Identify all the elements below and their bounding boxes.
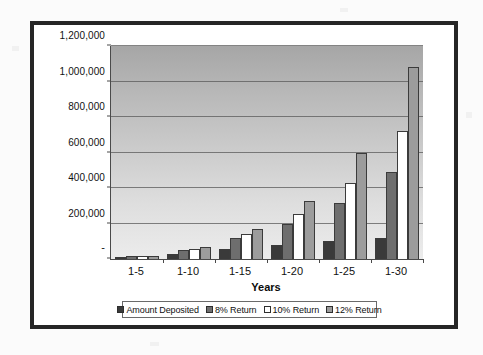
bar[interactable] [126, 256, 137, 259]
bar[interactable] [282, 224, 293, 260]
x-axis-tick-label: 1-10 [177, 265, 199, 277]
bar[interactable] [345, 183, 356, 259]
scanned-page: -200,000400,000600,000800,0001,000,0001,… [0, 0, 483, 355]
bar[interactable] [241, 234, 252, 259]
bar-group[interactable] [111, 46, 163, 259]
y-axis-tick-label: 800,000 [68, 101, 105, 112]
y-axis-tick-label: 600,000 [68, 136, 105, 147]
bar[interactable] [304, 201, 315, 259]
x-axis-labels: 1-51-101-151-201-251-30 [110, 265, 422, 281]
chart-legend: Amount Deposited8% Return10% Return12% R… [122, 301, 377, 318]
bar[interactable] [189, 249, 200, 259]
x-axis-tick-mark [423, 259, 424, 263]
x-axis-tick-label: 1-5 [128, 265, 144, 277]
bar[interactable] [200, 247, 211, 259]
x-axis-title: Years [110, 281, 422, 293]
scan-speckle [466, 112, 472, 118]
legend-swatch [206, 306, 213, 313]
bar-group[interactable] [371, 46, 423, 259]
bar[interactable] [356, 153, 367, 259]
legend-item[interactable]: 12% Return [326, 305, 382, 315]
scan-speckle [12, 46, 19, 51]
x-axis-tick-mark [267, 259, 268, 263]
bar-group[interactable] [163, 46, 215, 259]
legend-swatch [326, 306, 333, 313]
y-axis-tick-label: 1,000,000 [60, 65, 105, 76]
plot-area: -200,000400,000600,000800,0001,000,0001,… [110, 46, 423, 260]
legend-item[interactable]: 10% Return [264, 305, 320, 315]
legend-label: 12% Return [335, 305, 382, 315]
x-axis-tick-mark [163, 259, 164, 263]
legend-item[interactable]: Amount Deposited [117, 305, 198, 315]
x-axis-tick-label: 1-30 [385, 265, 407, 277]
legend-swatch [117, 306, 124, 313]
bar-group[interactable] [215, 46, 267, 259]
legend-label: Amount Deposited [126, 305, 198, 315]
scan-speckle [150, 342, 159, 346]
legend-swatch [264, 306, 271, 313]
bars-layer [111, 46, 423, 259]
bar[interactable] [252, 229, 263, 259]
bar[interactable] [375, 238, 386, 259]
bar[interactable] [230, 238, 241, 259]
bar[interactable] [167, 254, 178, 259]
x-axis-tick-mark [319, 259, 320, 263]
y-axis-tick-label: - [101, 241, 105, 253]
bar[interactable] [115, 257, 126, 259]
x-axis-tick-label: 1-20 [281, 265, 303, 277]
legend-label: 8% Return [215, 305, 257, 315]
x-axis-tick-mark [371, 259, 372, 263]
y-axis-tick-label: 200,000 [68, 207, 105, 218]
bar-group[interactable] [319, 46, 371, 259]
bar[interactable] [386, 172, 397, 259]
chart-frame: -200,000400,000600,000800,0001,000,0001,… [30, 21, 458, 329]
bar-group[interactable] [267, 46, 319, 259]
y-axis-tick-label: 400,000 [68, 172, 105, 183]
bar[interactable] [408, 67, 419, 259]
x-axis-tick-mark [215, 259, 216, 263]
bar[interactable] [219, 249, 230, 259]
bar[interactable] [178, 250, 189, 259]
x-axis-tick-label: 1-15 [229, 265, 251, 277]
bar[interactable] [397, 131, 408, 259]
bar[interactable] [148, 256, 159, 259]
bar[interactable] [334, 203, 345, 259]
bar[interactable] [137, 256, 148, 259]
legend-item[interactable]: 8% Return [206, 305, 257, 315]
x-axis-tick-label: 1-25 [333, 265, 355, 277]
scan-speckle [340, 8, 348, 12]
y-axis-tick-label: 1,200,000 [60, 30, 105, 41]
legend-label: 10% Return [273, 305, 320, 315]
chart-canvas: -200,000400,000600,000800,0001,000,0001,… [34, 25, 454, 325]
bar[interactable] [271, 245, 282, 259]
bar[interactable] [293, 214, 304, 259]
bar[interactable] [323, 241, 334, 259]
